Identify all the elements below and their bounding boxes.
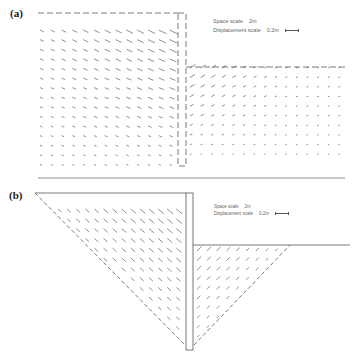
displacement-vector [131,258,135,262]
displacement-vector [190,65,196,69]
displacement-vector [116,155,118,156]
displacement-vector [176,248,181,252]
panel-b-passive-wedge-boundary [194,245,290,345]
displacement-vector [176,307,180,310]
displacement-vector [254,96,257,97]
displacement-vector [105,126,108,127]
displacement-vector [159,59,165,62]
displacement-vector [338,87,340,88]
displacement-vector [201,144,203,145]
displacement-vector [243,144,245,145]
displacement-vector [167,278,171,282]
displacement-vector [104,209,109,213]
displacement-vector [176,278,180,282]
displacement-vector [159,164,161,165]
displacement-vector [285,96,287,97]
displacement-vector [243,125,245,126]
displacement-vector [94,97,98,99]
displacement-vector [217,276,220,279]
displacement-vector [116,145,119,146]
displacement-vector [126,78,131,80]
displacement-vector [76,229,80,232]
displacement-vector [211,124,214,125]
displacement-vector [148,68,154,71]
displacement-vector [232,115,235,116]
displacement-vector [126,136,129,137]
displacement-vector [170,145,173,146]
displacement-vector [40,88,43,89]
displacement-vector [137,59,143,62]
displacement-vector [116,88,120,90]
displacement-vector [190,154,192,155]
displacement-vector [105,59,110,61]
displacement-vector [222,134,224,135]
displacement-vector [254,115,256,116]
panel-b-vectors [58,209,278,337]
displacement-vector [190,114,193,116]
displacement-vector [328,125,330,126]
displacement-vector [236,277,239,280]
displacement-vector [275,249,278,252]
displacement-vector [317,77,319,78]
displacement-vector [51,155,53,156]
displacement-vector [256,248,259,251]
displacement-vector [113,229,117,233]
displacement-vector [264,86,266,87]
displacement-vector [83,155,85,156]
displacement-vector [232,105,235,107]
displacement-vector [105,155,107,156]
displacement-vector [126,68,131,70]
displacement-vector [217,286,220,289]
displacement-vector [83,116,86,117]
displacement-vector [140,258,144,262]
displacement-vector [67,219,71,222]
displacement-vector [159,68,165,71]
displacement-vector [211,154,213,155]
displacement-vector [126,107,130,109]
displacement-vector [104,248,108,251]
displacement-vector [246,258,249,261]
displacement-vector [72,78,76,80]
displacement-vector [126,49,132,52]
displacement-vector [232,76,236,78]
displacement-vector [122,238,126,242]
displacement-vector [126,59,132,62]
displacement-vector [140,278,144,281]
displacement-vector [176,258,181,262]
displacement-vector [201,65,206,68]
displacement-vector [197,247,202,252]
displacement-vector [197,335,199,337]
displacement-vector [226,296,229,299]
displacement-vector [264,115,266,116]
displacement-vector [264,125,266,126]
displacement-vector [264,96,266,97]
displacement-vector [113,209,118,213]
displacement-vector [167,268,171,272]
displacement-vector [285,144,287,145]
displacement-vector [296,115,298,116]
displacement-vector [222,115,225,116]
displacement-vector [176,317,179,320]
displacement-vector [126,164,128,165]
displacement-vector [94,155,96,156]
displacement-vector [126,145,129,146]
displacement-vector [254,134,256,135]
panel-a-vectors [40,30,340,165]
displacement-vector [105,97,109,99]
displacement-vector [148,78,153,80]
displacement-vector [307,115,309,116]
displacement-vector [236,257,239,260]
displacement-vector [170,164,172,165]
displacement-vector [246,277,249,280]
displacement-vector [51,145,53,146]
displacement-vector [167,238,172,242]
displacement-vector [167,297,171,300]
displacement-vector [137,116,141,118]
displacement-vector [170,126,174,127]
displacement-vector [148,59,154,62]
displacement-vector [148,97,153,99]
displacement-vector [197,286,201,290]
displacement-vector [51,30,55,32]
displacement-vector [307,87,309,88]
displacement-vector [126,116,130,118]
